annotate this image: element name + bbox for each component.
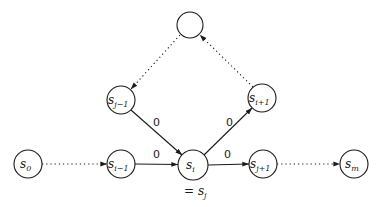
- node-s-j-plus-1: sj+1: [249, 150, 277, 178]
- edge-label-si-1-si: 0: [153, 148, 160, 161]
- edge-si+1-to-top: [200, 35, 253, 87]
- node-top-unlabeled: [177, 12, 203, 38]
- node-s0: s0: [14, 150, 42, 178]
- edge-label-si-si+1: 0: [226, 116, 233, 129]
- annotation-equals-sj: = sj: [184, 184, 207, 200]
- edge-label-si-sj+1: 0: [224, 148, 231, 161]
- node-s-i-plus-1: si+1: [248, 84, 276, 112]
- edge-label-sj-1-si: 0: [153, 116, 160, 129]
- node-s-i-minus-1: si−1: [107, 150, 135, 178]
- node-s-j-minus-1: sj−1: [107, 86, 135, 114]
- edge-top-to-sj-1: [131, 35, 180, 89]
- edge-si-to-sj+1: [208, 164, 249, 165]
- node-s-m: sm: [340, 150, 368, 178]
- state-diagram: 0 0 0 0 s0 si−1 si sj+1 sm sj−1 si+1 = s…: [0, 0, 379, 207]
- edge-si-1-to-si: [135, 164, 178, 165]
- node-s-i: si: [178, 150, 208, 180]
